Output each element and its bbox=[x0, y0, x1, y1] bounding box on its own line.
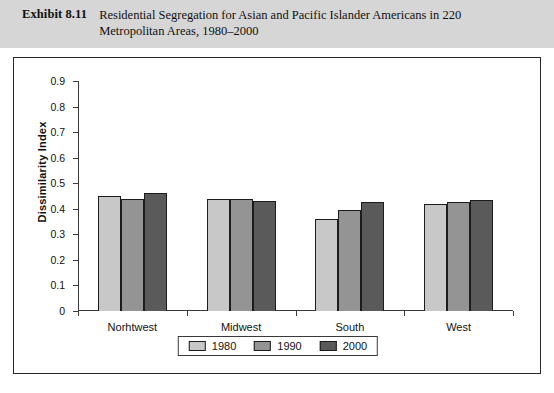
bar-1990-west[interactable] bbox=[447, 202, 470, 311]
y-axis-tick-label: 0.3 bbox=[50, 228, 65, 240]
y-axis-tick-label: 0 bbox=[59, 305, 65, 317]
x-axis-tick bbox=[296, 311, 297, 316]
y-axis-tick-label: 0.8 bbox=[50, 101, 65, 113]
page-bottom-fade bbox=[0, 374, 554, 393]
bar-2000-south[interactable] bbox=[361, 202, 384, 311]
x-axis-tick bbox=[404, 311, 405, 316]
y-axis-tick-label: 0.2 bbox=[50, 254, 65, 266]
bar-1980-norhtwest[interactable] bbox=[98, 196, 121, 311]
plot-area: 00.10.20.30.40.50.60.70.80.9NorhtwestMid… bbox=[78, 81, 513, 311]
bar-2000-norhtwest[interactable] bbox=[144, 193, 167, 311]
y-axis-tick-label: 0.6 bbox=[50, 152, 65, 164]
chart-legend: 198019902000 bbox=[178, 336, 378, 356]
y-axis-tick-label: 0.4 bbox=[50, 203, 65, 215]
legend-swatch-1980 bbox=[189, 341, 206, 351]
bar-1980-west[interactable] bbox=[424, 204, 447, 311]
bar-group: South bbox=[296, 81, 405, 311]
x-axis-category-label: Norhtwest bbox=[78, 321, 187, 333]
legend-item-1990[interactable]: 1990 bbox=[254, 340, 301, 352]
bar-1990-south[interactable] bbox=[338, 210, 361, 311]
legend-label-1980: 1980 bbox=[212, 340, 236, 352]
bar-1990-midwest[interactable] bbox=[230, 199, 253, 311]
x-axis-tick bbox=[78, 311, 79, 316]
bar-2000-midwest[interactable] bbox=[253, 201, 276, 311]
bar-1980-midwest[interactable] bbox=[207, 199, 230, 311]
exhibit-label: Exhibit 8.11 bbox=[22, 7, 99, 39]
x-axis-category-label: Midwest bbox=[187, 321, 296, 333]
bar-group: Midwest bbox=[187, 81, 296, 311]
legend-item-2000[interactable]: 2000 bbox=[320, 340, 367, 352]
exhibit-header-band: Exhibit 8.11 Residential Segregation for… bbox=[0, 0, 554, 48]
legend-item-1980[interactable]: 1980 bbox=[189, 340, 236, 352]
y-axis-title: Dissimilarity Index bbox=[36, 102, 48, 242]
legend-swatch-2000 bbox=[320, 341, 337, 351]
legend-label-2000: 2000 bbox=[343, 340, 367, 352]
bar-group: West bbox=[404, 81, 513, 311]
y-axis-tick-label: 0.5 bbox=[50, 177, 65, 189]
y-axis-tick-label: 0.1 bbox=[50, 279, 65, 291]
chart-plot-wrapper: Dissimilarity Index 00.10.20.30.40.50.60… bbox=[14, 58, 542, 375]
bar-group: Norhtwest bbox=[78, 81, 187, 311]
x-axis-tick bbox=[187, 311, 188, 316]
y-axis-tick-label: 0.9 bbox=[50, 75, 65, 87]
x-axis-category-label: West bbox=[404, 321, 513, 333]
x-axis-category-label: South bbox=[296, 321, 405, 333]
bar-2000-west[interactable] bbox=[470, 200, 493, 311]
bar-1990-norhtwest[interactable] bbox=[121, 199, 144, 311]
y-axis-tick-label: 0.7 bbox=[50, 126, 65, 138]
bar-1980-south[interactable] bbox=[315, 219, 338, 311]
x-axis-tick bbox=[513, 311, 514, 316]
exhibit-title: Residential Segregation for Asian and Pa… bbox=[99, 7, 499, 39]
chart-frame: Dissimilarity Index 00.10.20.30.40.50.60… bbox=[13, 57, 541, 374]
legend-swatch-1990 bbox=[254, 341, 271, 351]
legend-label-1990: 1990 bbox=[277, 340, 301, 352]
